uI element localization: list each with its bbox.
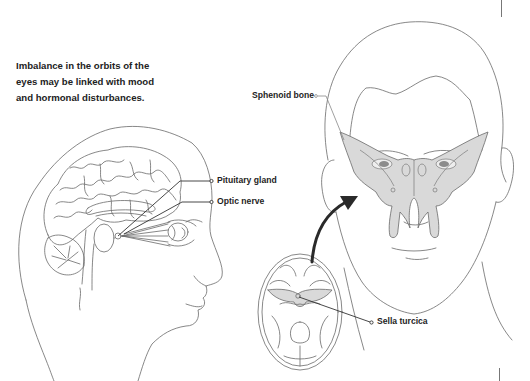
sphenoid-leader-line	[315, 95, 344, 140]
anatomy-illustrations	[0, 0, 530, 381]
head-profile-illustration	[19, 126, 223, 381]
label-sphenoid-bone: Sphenoid bone	[252, 90, 314, 100]
skull-base-illustration	[258, 254, 342, 370]
illustration-page: Imbalance in the orbits of the eyes may …	[0, 0, 530, 381]
label-sella-turcica: Sella turcica	[377, 316, 428, 326]
curved-arrow-icon	[312, 196, 358, 262]
leader-lines-left	[118, 179, 213, 236]
optic-nerve-leader-line	[124, 202, 210, 234]
sella-turcica-leader-line	[299, 297, 373, 324]
label-optic-nerve: Optic nerve	[217, 196, 264, 206]
label-pituitary-gland: Pituitary gland	[217, 175, 277, 185]
